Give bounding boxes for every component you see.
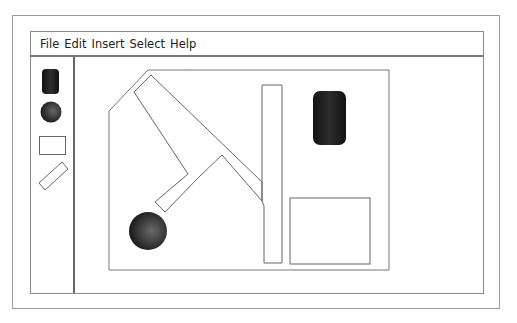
menu-help[interactable]: Help bbox=[170, 37, 196, 51]
menu-select[interactable]: Select bbox=[130, 37, 165, 51]
rotated-rectangle-icon bbox=[38, 161, 70, 191]
rectangle-object[interactable] bbox=[290, 198, 370, 264]
shape-toolbar bbox=[31, 57, 75, 293]
rectangle-tool[interactable] bbox=[39, 136, 67, 156]
rectangle-icon bbox=[39, 136, 67, 156]
sphere-icon bbox=[40, 101, 64, 125]
menu-bar: File Edit Insert Select Help bbox=[31, 32, 483, 57]
sphere-object[interactable] bbox=[129, 212, 167, 250]
diagonal-wall[interactable] bbox=[134, 75, 262, 212]
cylinder-tool[interactable] bbox=[41, 68, 61, 96]
rotated-rectangle-tool[interactable] bbox=[38, 161, 70, 191]
cylinder-object[interactable] bbox=[313, 91, 346, 145]
vertical-wall[interactable] bbox=[262, 85, 282, 263]
cylinder-icon bbox=[41, 68, 61, 96]
menu-insert[interactable]: Insert bbox=[92, 37, 125, 51]
drawing-canvas[interactable] bbox=[75, 57, 483, 293]
app-window: File Edit Insert Select Help bbox=[30, 31, 484, 294]
menu-edit[interactable]: Edit bbox=[64, 37, 86, 51]
sphere-tool[interactable] bbox=[40, 101, 64, 125]
menu-file[interactable]: File bbox=[40, 37, 59, 51]
